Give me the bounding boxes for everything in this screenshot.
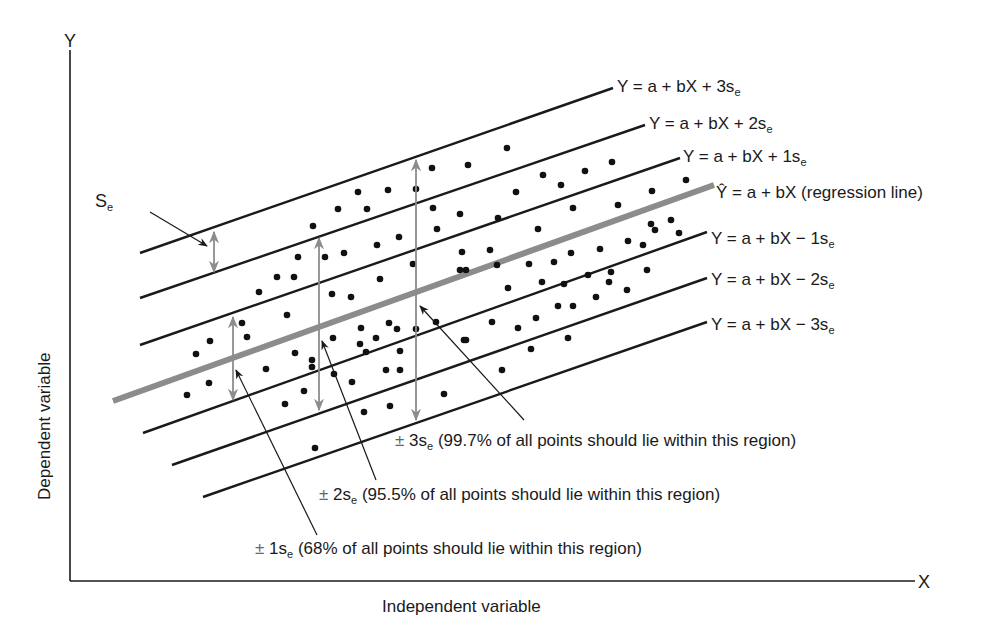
data-point [244,334,251,341]
region-label-three-se: ± 3se (99.7% of all points should lie wi… [395,432,796,449]
equation-rhs: = a + bX + 3s [633,77,735,96]
data-point [526,261,533,268]
data-point [489,319,496,326]
data-point [625,238,632,245]
data-point [652,227,659,234]
se-marker-text: S [95,191,107,211]
data-point [394,326,401,333]
se-marker-label: Se [95,192,113,210]
equation-rhs: = a + bX − 3s [727,315,829,334]
data-point [551,259,558,266]
data-point [301,388,308,395]
equation-rhs: = a + bX (regression line) [732,183,923,202]
data-point [349,379,356,386]
region-k: 1s [269,539,287,558]
region-sub: e [287,548,293,560]
data-point [561,281,568,288]
data-point [292,350,299,357]
data-point [282,401,289,408]
data-point [505,285,512,292]
data-point [441,391,448,398]
data-point [295,254,302,261]
equation-label-minus2: Y = a + bX − 2se [711,271,835,288]
data-point [430,205,437,212]
equation-label-minus1: Y = a + bX − 1se [711,230,835,247]
data-point [609,159,616,166]
data-point [434,226,441,233]
data-point [385,187,392,194]
line-regression [113,185,714,401]
data-point [582,168,589,175]
data-point [309,357,316,364]
data-point [239,320,246,327]
data-point [494,262,501,269]
data-point [284,312,291,319]
data-point [649,188,656,195]
equation-lhs: Y [617,77,633,96]
equation-lhs: Ŷ [716,183,732,202]
equation-label-minus3: Y = a + bX − 3se [711,316,835,333]
data-point [364,206,371,213]
equation-rhs: = a + bX − 1s [727,229,829,248]
equation-lhs: Y [683,147,699,166]
equation-lhs: Y [711,270,727,289]
data-point [570,205,577,212]
data-point [535,226,542,233]
band-width-arrows [214,160,416,420]
equation-label-plus1: Y = a + bX + 1se [683,148,807,165]
data-point [377,276,384,283]
region-text: (68% of all points should lie within thi… [298,539,642,558]
data-point [193,351,200,358]
equation-rhs: = a + bX + 1s [699,147,801,166]
data-point [565,335,572,342]
data-point [274,274,281,281]
data-point [387,403,394,410]
equation-label-regression: Ŷ = a + bX (regression line) [716,184,923,201]
equation-lhs: Y [711,315,727,334]
data-point [513,189,520,196]
data-point [358,325,365,332]
data-point [457,267,464,274]
data-point [386,320,393,327]
scatter-points [184,145,690,452]
data-point [539,279,546,286]
callout-pm1_pointer [236,370,317,535]
data-point [312,445,319,452]
data-point [373,335,380,342]
data-point [593,294,600,301]
data-point [533,315,540,322]
data-point [648,221,655,228]
data-point [570,303,577,310]
region-k: 3s [409,431,427,450]
equation-rhs: = a + bX − 2s [727,270,829,289]
data-point [676,230,683,237]
data-point [355,189,362,196]
equation-lhs: Y [649,114,665,133]
data-point [528,346,535,353]
line-minus1 [143,232,707,433]
region-label-two-se: ± 2se (95.5% of all points should lie wi… [319,486,720,503]
data-point [540,172,547,179]
se-marker-sub: e [107,201,113,213]
data-point [184,392,191,399]
data-point [615,202,622,209]
data-point [383,367,390,374]
equation-rhs: = a + bX + 2s [665,114,767,133]
equation-sub: e [766,123,772,135]
x-axis-name: X [918,573,930,591]
data-point [329,291,336,298]
data-point [256,289,263,296]
data-point [608,269,615,276]
data-point [206,380,213,387]
x-axis-label: Independent variable [382,598,541,615]
data-point [487,247,494,254]
data-point [396,234,403,241]
data-point [263,366,270,373]
y-axis-name: Y [64,32,76,50]
data-point [397,348,404,355]
plus-minus-symbol: ± [319,485,328,504]
line-plus2 [140,125,645,298]
data-point [463,267,470,274]
data-point [357,341,364,348]
data-point [461,337,468,344]
